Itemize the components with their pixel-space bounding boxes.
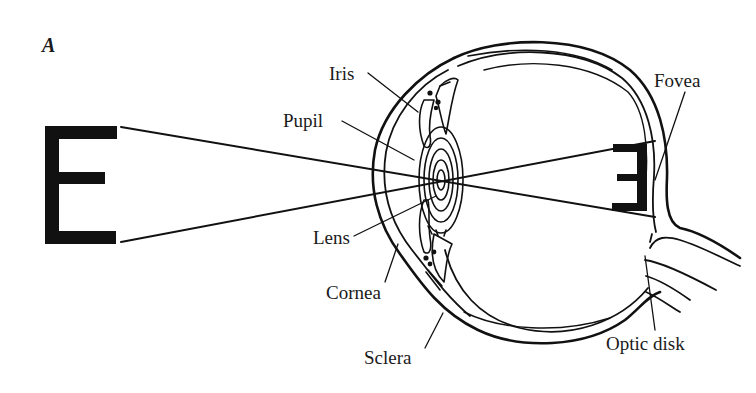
retinal-image-e (612, 144, 647, 211)
leader-pupil (342, 121, 414, 160)
label-sclera: Sclera (364, 347, 412, 368)
leader-fovea (655, 92, 685, 180)
leader-sclera (425, 313, 443, 348)
stimulus-letter-e (45, 126, 117, 244)
panel-label: A (40, 34, 55, 56)
iris-ciliary-upper (420, 78, 459, 147)
label-pupil: Pupil (283, 110, 323, 131)
label-iris: Iris (329, 63, 354, 84)
label-cornea: Cornea (326, 282, 381, 303)
leader-iris (368, 73, 418, 112)
optic-nerve (645, 234, 740, 312)
leader-cornea (385, 244, 398, 282)
label-lens: Lens (313, 227, 350, 248)
label-optic-disk: Optic disk (606, 333, 685, 354)
label-fovea: Fovea (654, 70, 701, 91)
eye-diagram: A (0, 0, 756, 393)
leader-lens (354, 196, 436, 236)
